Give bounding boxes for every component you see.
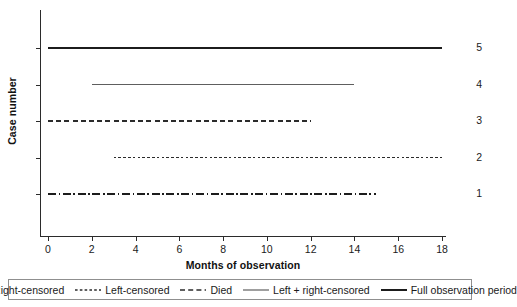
y-axis-title: Case number (6, 51, 18, 171)
legend-label-1: Left-censored (105, 284, 169, 296)
legend-label-2: Died (210, 284, 232, 296)
legend-item-1: Left-censored (75, 284, 169, 296)
chart-legend: Right-censoredLeft-censoredDiedLeft + ri… (8, 279, 472, 300)
legend-swatch-icon-2 (180, 285, 206, 295)
legend-label-4: Full observation period (411, 284, 517, 296)
x-axis-title: Months of observation (40, 259, 446, 271)
legend-swatch-icon-1 (75, 285, 101, 295)
plot-area: 12345 024681012141618 Case number Months… (0, 0, 482, 270)
legend-label-3: Left + right-censored (273, 284, 370, 296)
legend-swatch-icon-4 (381, 285, 407, 295)
legend-label-0: Right-censored (0, 284, 64, 296)
legend-swatch-icon-3 (243, 285, 269, 295)
legend-item-0: Right-censored (0, 284, 64, 296)
legend-item-2: Died (180, 284, 232, 296)
legend-item-4: Full observation period (381, 284, 517, 296)
legend-item-3: Left + right-censored (243, 284, 370, 296)
